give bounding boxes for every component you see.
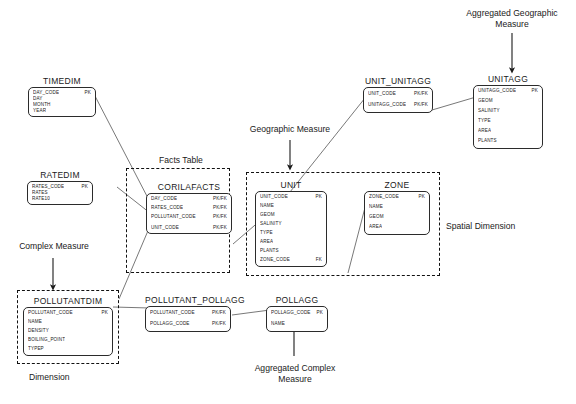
attribute-name: UNITAGG_CODE: [478, 88, 516, 94]
attribute-row: TYPE: [474, 118, 542, 128]
attribute-name: AREA: [478, 128, 491, 134]
attribute-row: POLLUTANT_CODE PK/FK: [146, 310, 230, 321]
annotation-facts-table: Facts Table: [136, 155, 226, 166]
attribute-row: POLLAGG_CODE PK/FK: [146, 321, 230, 327]
attribute-name: POLLUTANT_CODE: [150, 310, 195, 316]
attribute-row: UNITAGG_CODE PK: [474, 88, 542, 98]
entity-pollutantdim[interactable]: POLLUTANTDIM POLLUTANT_CODE PK NAME DENS…: [23, 296, 113, 356]
er-diagram-canvas: TIMEDIM DAY_CODE PK DAY MONTH YEAR RATED…: [0, 0, 576, 404]
entity-corilafacts[interactable]: CORILAFACTS DAY_CODE PK/FK RATES_CODE PK…: [146, 182, 232, 234]
attribute-row: NAME: [24, 319, 112, 328]
attribute-row: GEOM: [365, 214, 429, 224]
attribute-row: AREA: [474, 128, 542, 138]
attribute-name: SALINITY: [478, 108, 500, 114]
attribute-key: PK: [85, 90, 91, 96]
attribute-key: PK: [532, 88, 538, 94]
entity-title-unit-unitagg: UNIT_UNITAGG: [363, 76, 433, 86]
attribute-row: UNITAGG_CODE PK/FK: [364, 102, 432, 108]
entity-body-zone: ZONE_CODE PK NAME GEOM AREA: [364, 191, 430, 235]
attribute-name: POLLAGG_CODE: [271, 310, 311, 316]
attribute-row: POLLAGG_CODE PK: [267, 310, 327, 321]
attribute-name: POLLUTANT_CODE: [28, 310, 73, 316]
attribute-name: UNIT_CODE: [368, 91, 396, 97]
entity-timedim[interactable]: TIMEDIM DAY_CODE PK DAY MONTH YEAR: [28, 76, 96, 117]
attribute-name: PLANTS: [260, 248, 279, 254]
attribute-row: BOILING_POINT: [24, 337, 112, 346]
attribute-name: GEOM: [260, 212, 275, 218]
attribute-name: TYPE: [260, 230, 273, 236]
attribute-row: UNIT_CODE PK/FK: [147, 225, 231, 231]
attribute-key: PK: [316, 194, 322, 200]
entity-zone[interactable]: ZONE ZONE_CODE PK NAME GEOM AREA: [364, 180, 430, 235]
attribute-row: ZONE_CODE PK: [365, 194, 429, 204]
entity-body-ratedim: RATES_CODE PK RATES RATE10: [27, 181, 93, 205]
attribute-key: PK/FK: [414, 91, 428, 97]
entity-unit[interactable]: UNIT UNIT_CODE PK NAME GEOM SALINITY TYP…: [255, 180, 327, 267]
attribute-key: PK: [82, 184, 88, 190]
attribute-name: POLLUTANT_CODE: [151, 214, 196, 220]
entity-pollagg[interactable]: POLLAGG POLLAGG_CODE PK NAME: [266, 295, 328, 332]
attribute-row: RATES_CODE PK/FK: [147, 205, 231, 214]
attribute-row: AREA: [365, 224, 429, 230]
attribute-key: PK/FK: [212, 321, 226, 327]
entity-title-pollagg: POLLAGG: [266, 295, 328, 305]
attribute-row: AREA: [256, 239, 326, 248]
attribute-name: RATES_CODE: [151, 205, 183, 211]
entity-title-pollutant-pollagg: POLLUTANT_POLLAGG: [145, 295, 231, 305]
entity-unitagg[interactable]: UNITAGG UNITAGG_CODE PK GEOM SALINITY TY…: [473, 74, 543, 149]
attribute-row: RATE10: [28, 196, 92, 202]
annotation-geographic-measure: Geographic Measure: [228, 124, 352, 135]
entity-body-unit-unitagg: UNIT_CODE PK/FK UNITAGG_CODE PK/FK: [363, 87, 433, 113]
entity-ratedim[interactable]: RATEDIM RATES_CODE PK RATES RATE10: [27, 170, 93, 205]
attribute-name: AREA: [369, 224, 382, 230]
attribute-name: NAME: [271, 321, 285, 327]
attribute-name: GEOM: [478, 98, 493, 104]
entity-title-ratedim: RATEDIM: [27, 170, 93, 180]
attribute-key: PK/FK: [213, 205, 227, 211]
annotation-dimension: Dimension: [29, 372, 70, 383]
attribute-row: NAME: [256, 203, 326, 212]
attribute-name: UNIT_CODE: [260, 194, 288, 200]
attribute-name: SALINITY: [260, 221, 282, 227]
entity-title-unitagg: UNITAGG: [473, 74, 543, 84]
attribute-key: PK/FK: [213, 214, 227, 220]
entity-body-pollutantdim: POLLUTANT_CODE PK NAME DENSITY BOILING_P…: [23, 307, 113, 356]
attribute-name: POLLAGG_CODE: [150, 321, 190, 327]
entity-pollutant-pollagg[interactable]: POLLUTANT_POLLAGG POLLUTANT_CODE PK/FK P…: [145, 295, 231, 332]
attribute-row: POLLUTANT_CODE PK: [24, 310, 112, 319]
entity-body-corilafacts: DAY_CODE PK/FK RATES_CODE PK/FK POLLUTAN…: [146, 193, 232, 234]
attribute-key: PK: [419, 194, 425, 200]
annotation-aggregated-geographic-measure: Aggregated Geographic Measure: [447, 8, 576, 30]
attribute-name: NAME: [260, 203, 274, 209]
attribute-row: GEOM: [474, 98, 542, 108]
attribute-name: GEOM: [369, 214, 384, 220]
entity-body-unitagg: UNITAGG_CODE PK GEOM SALINITY TYPE AREA …: [473, 85, 543, 149]
attribute-name: PLANTS: [478, 138, 497, 144]
attribute-row: NAME: [365, 204, 429, 214]
attribute-name: DENSITY: [28, 328, 49, 334]
entity-title-zone: ZONE: [364, 180, 430, 190]
attribute-row: TYPEP: [24, 346, 112, 352]
entity-title-unit: UNIT: [255, 180, 327, 190]
entity-body-pollutant-pollagg: POLLUTANT_CODE PK/FK POLLAGG_CODE PK/FK: [145, 306, 231, 332]
attribute-key: PK: [102, 310, 108, 316]
attribute-name: UNITAGG_CODE: [368, 102, 406, 108]
annotation-complex-measure: Complex Measure: [0, 241, 108, 252]
attribute-key: PK/FK: [213, 225, 227, 231]
attribute-name: NAME: [369, 204, 383, 210]
attribute-row: GEOM: [256, 212, 326, 221]
attribute-name: BOILING_POINT: [28, 337, 65, 343]
attribute-name: UNIT_CODE: [151, 225, 179, 231]
attribute-name: RATE10: [32, 196, 50, 202]
entity-body-timedim: DAY_CODE PK DAY MONTH YEAR: [28, 87, 96, 117]
attribute-name: TYPE: [478, 118, 491, 124]
entity-body-pollagg: POLLAGG_CODE PK NAME: [266, 306, 328, 332]
attribute-row: SALINITY: [256, 221, 326, 230]
attribute-row: POLLUTANT_CODE PK/FK: [147, 214, 231, 225]
entity-unit-unitagg[interactable]: UNIT_UNITAGG UNIT_CODE PK/FK UNITAGG_COD…: [363, 76, 433, 113]
entity-title-timedim: TIMEDIM: [28, 76, 96, 86]
attribute-row: UNIT_CODE PK: [256, 194, 326, 203]
annotation-spatial-dimension: Spatial Dimension: [446, 221, 515, 232]
attribute-name: ZONE_CODE: [260, 257, 290, 263]
attribute-key: PK: [317, 310, 323, 316]
